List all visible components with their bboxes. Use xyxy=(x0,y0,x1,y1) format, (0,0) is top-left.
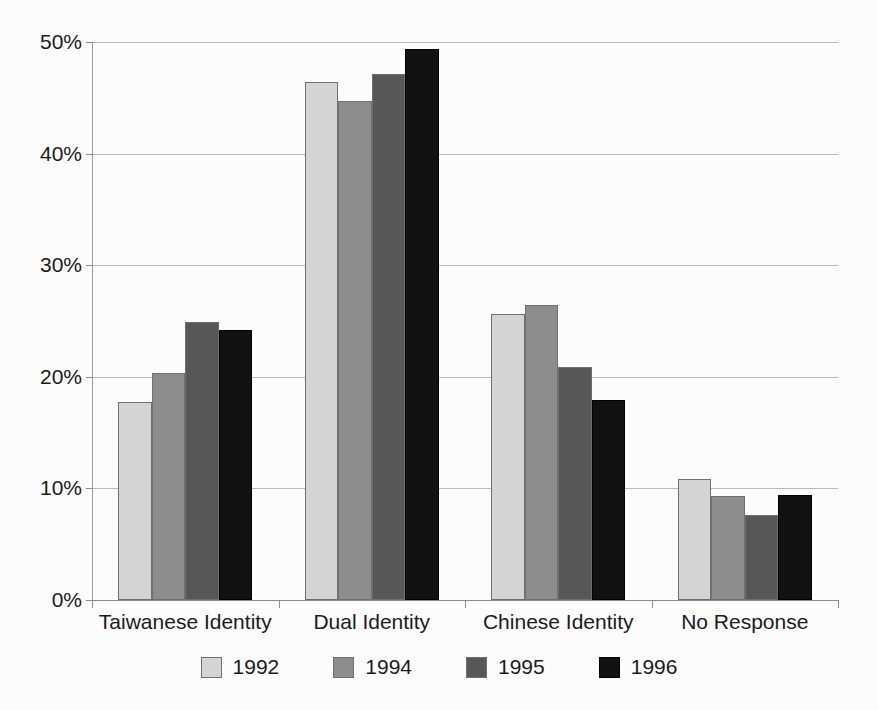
bar-group xyxy=(491,42,625,600)
x-axis-category-label: Chinese Identity xyxy=(483,610,634,634)
legend-item[interactable]: 1992 xyxy=(201,655,280,679)
legend-item[interactable]: 1994 xyxy=(333,655,412,679)
legend-label: 1996 xyxy=(631,655,678,679)
y-axis-tick-mark xyxy=(86,154,93,155)
y-axis-tick-label: 30% xyxy=(8,253,82,277)
y-axis-tick-label: 20% xyxy=(8,365,82,389)
y-axis-tick-labels: 0%10%20%30%40%50% xyxy=(0,42,82,600)
x-axis-category-label: No Response xyxy=(681,610,808,634)
legend-item[interactable]: 1996 xyxy=(599,655,678,679)
bar xyxy=(219,330,253,600)
plot-area xyxy=(92,42,838,600)
x-axis-tick-mark xyxy=(652,600,653,608)
bar xyxy=(592,400,626,600)
bar xyxy=(525,305,559,600)
legend-swatch xyxy=(201,657,222,678)
bar xyxy=(372,74,406,600)
x-axis-tick-mark xyxy=(92,600,93,608)
bar xyxy=(678,479,712,600)
bar-group xyxy=(678,42,812,600)
y-axis-tick-mark xyxy=(86,488,93,489)
bar xyxy=(338,101,372,600)
bar xyxy=(152,373,186,600)
x-axis-tick-mark xyxy=(279,600,280,608)
x-axis-tick-mark xyxy=(838,600,839,608)
legend-swatch xyxy=(333,657,354,678)
bar-chart: 0%10%20%30%40%50% Taiwanese IdentityDual… xyxy=(0,0,878,710)
bar xyxy=(778,495,812,600)
x-axis-category-label: Dual Identity xyxy=(313,610,430,634)
bar xyxy=(185,322,219,600)
y-axis-tick-mark xyxy=(86,377,93,378)
y-axis-tick-mark xyxy=(86,42,93,43)
y-axis-tick-label: 50% xyxy=(8,30,82,54)
bar xyxy=(558,367,592,600)
bar xyxy=(711,496,745,600)
legend-label: 1994 xyxy=(365,655,412,679)
bar-group xyxy=(118,42,252,600)
y-axis-tick-label: 40% xyxy=(8,142,82,166)
y-axis-tick-mark xyxy=(86,265,93,266)
bar xyxy=(118,402,152,600)
legend-swatch xyxy=(466,657,487,678)
legend-item[interactable]: 1995 xyxy=(466,655,545,679)
bar xyxy=(745,515,779,600)
chart-legend: 1992199419951996 xyxy=(0,655,878,679)
x-axis-category-label: Taiwanese Identity xyxy=(99,610,272,634)
legend-swatch xyxy=(599,657,620,678)
bar xyxy=(305,82,339,600)
x-axis-tick-mark xyxy=(465,600,466,608)
bar xyxy=(491,314,525,600)
bar xyxy=(405,49,439,600)
legend-label: 1995 xyxy=(498,655,545,679)
y-axis-tick-label: 10% xyxy=(8,476,82,500)
bar-group xyxy=(305,42,439,600)
y-axis-tick-label: 0% xyxy=(8,588,82,612)
legend-label: 1992 xyxy=(233,655,280,679)
y-axis-tick-mark xyxy=(86,600,93,601)
